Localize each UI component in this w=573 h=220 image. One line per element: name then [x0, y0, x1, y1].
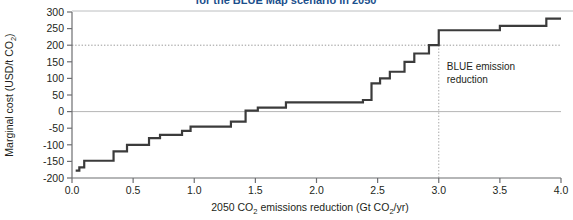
marginal-cost-step-curve [76, 19, 561, 171]
x-tick-label-0.0: 0.0 [65, 184, 80, 196]
y-tick-label-250: 250 [46, 22, 64, 34]
x-tick-label-4.0: 4.0 [554, 184, 569, 196]
x-tick-label-3.0: 3.0 [431, 184, 446, 196]
chart-title: for the BLUE Map scenario in 2050 [196, 0, 377, 6]
y-tick-label-150: 150 [46, 56, 64, 68]
y-tick-label--50: -50 [49, 122, 64, 134]
x-tick-label-3.5: 3.5 [493, 184, 508, 196]
x-tick-label-1.5: 1.5 [248, 184, 263, 196]
marginal-cost-curve-chart: for the BLUE Map scenario in 20503002502… [0, 0, 573, 220]
x-tick-label-1.0: 1.0 [187, 184, 202, 196]
y-tick-label--200: -200 [43, 172, 64, 184]
blue-reduction-annotation-line2: reduction [447, 74, 488, 85]
y-tick-label--150: -150 [43, 155, 64, 167]
y-tick-label-200: 200 [46, 39, 64, 51]
y-tick-label-50: 50 [52, 89, 64, 101]
y-tick-label-100: 100 [46, 72, 64, 84]
blue-reduction-annotation-line1: BLUE emission [447, 61, 515, 72]
x-axis-title: 2050 CO2 emissions reduction (Gt CO2/yr) [211, 201, 409, 216]
y-axis-title: Marginal cost (USD/t CO2) [3, 33, 18, 156]
y-tick-label--100: -100 [43, 139, 64, 151]
chart-figure: for the BLUE Map scenario in 20503002502… [0, 0, 573, 220]
y-tick-label-0: 0 [58, 105, 64, 117]
x-tick-label-2.5: 2.5 [370, 184, 385, 196]
x-tick-label-0.5: 0.5 [126, 184, 141, 196]
y-tick-label-300: 300 [46, 6, 64, 18]
x-tick-label-2.0: 2.0 [309, 184, 324, 196]
